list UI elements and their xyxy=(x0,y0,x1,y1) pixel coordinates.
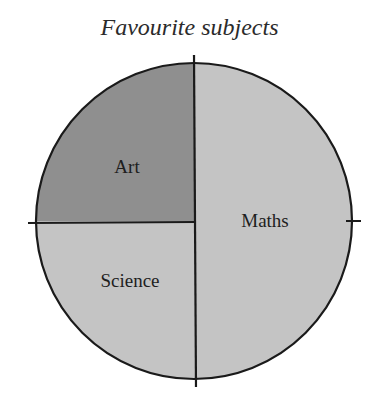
horizontal-divider xyxy=(28,222,195,223)
slice-art xyxy=(36,63,194,221)
pie-chart: Art Maths Science xyxy=(0,0,379,408)
label-maths: Maths xyxy=(241,210,289,231)
label-art: Art xyxy=(114,156,140,177)
label-science: Science xyxy=(100,270,159,291)
slice-science xyxy=(36,221,194,379)
